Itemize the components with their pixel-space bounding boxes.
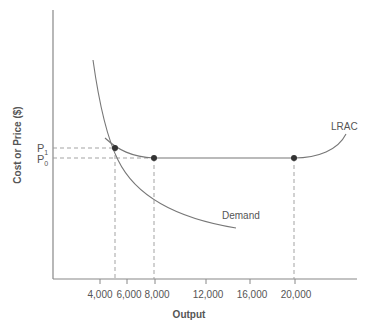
x-tick-16000: 16,000 bbox=[237, 289, 268, 300]
y-axis-title: Cost or Price ($) bbox=[12, 106, 23, 183]
x-tick-6000: 6,000 bbox=[116, 289, 141, 300]
lrac-label: LRAC bbox=[331, 121, 358, 132]
x-tick-8000: 8,000 bbox=[144, 289, 169, 300]
point-intersection bbox=[112, 145, 118, 151]
lrac-curve bbox=[105, 134, 346, 158]
x-axis-title: Output bbox=[173, 309, 206, 320]
point-20000 bbox=[291, 155, 297, 161]
point-mes bbox=[151, 155, 157, 161]
chart: 4,000 6,000 8,000 12,000 16,000 20,000 O… bbox=[0, 0, 375, 328]
x-ticks bbox=[100, 279, 295, 284]
x-tick-20000: 20,000 bbox=[281, 289, 312, 300]
demand-label: Demand bbox=[222, 210, 260, 221]
demand-curve bbox=[93, 60, 236, 228]
x-tick-12000: 12,000 bbox=[193, 289, 224, 300]
x-tick-4000: 4,000 bbox=[87, 289, 112, 300]
